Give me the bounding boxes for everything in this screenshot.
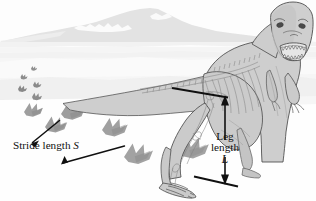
figure-canvas [0,0,316,201]
dinosaur-stride-figure: Stride length S Leg length L [0,0,316,201]
stride-length-text: Stride length [13,139,70,151]
stride-length-symbol: S [73,139,79,151]
stride-length-label: Stride length S [13,140,79,151]
leg-length-label: Leg length L [205,131,245,166]
leg-length-symbol: L [205,154,245,166]
